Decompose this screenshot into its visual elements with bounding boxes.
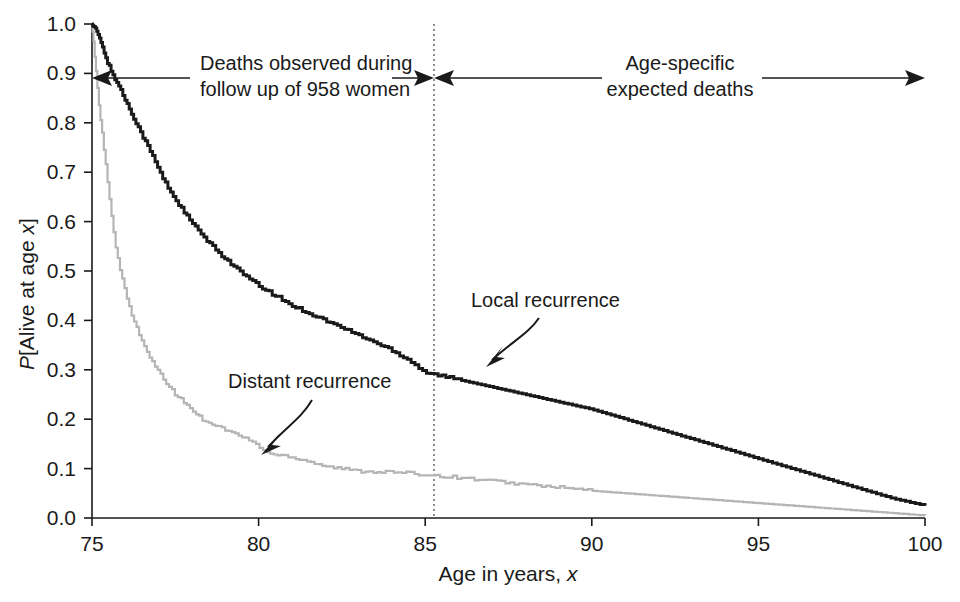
y-tick-label: 0.3 — [47, 358, 76, 381]
observed-annotation-line1: Deaths observed during — [200, 52, 412, 74]
y-axis-title-text: P[Alive at age x] — [15, 218, 38, 370]
x-axis-title-text: Age in years, x — [439, 562, 579, 585]
chart-page: 0.00.10.20.30.40.50.60.70.80.91.0 758085… — [0, 0, 960, 602]
y-tick-label: 1.0 — [47, 12, 76, 35]
expected-annotation-line1: Age-specific — [626, 52, 735, 74]
x-axis-title: Age in years, x — [439, 562, 579, 585]
x-tick-label: 75 — [80, 532, 103, 555]
survival-curve-chart: 0.00.10.20.30.40.50.60.70.80.91.0 758085… — [0, 0, 960, 602]
y-tick-label: 0.1 — [47, 457, 76, 480]
y-tick-label: 0.6 — [47, 210, 76, 233]
y-tick-label: 0.7 — [47, 160, 76, 183]
observed-annotation-line2: follow up of 958 women — [200, 78, 410, 100]
x-tick-label: 85 — [414, 532, 437, 555]
y-tick-label: 0.9 — [47, 61, 76, 84]
y-tick-label: 0.5 — [47, 259, 76, 282]
x-tick-label: 90 — [580, 532, 603, 555]
local-recurrence-label: Local recurrence — [471, 289, 620, 311]
y-tick-label: 0.0 — [47, 506, 76, 529]
y-tick-label: 0.2 — [47, 407, 76, 430]
x-tick-label: 95 — [747, 532, 770, 555]
distant-recurrence-label: Distant recurrence — [228, 370, 391, 392]
expected-annotation-line2: expected deaths — [607, 78, 754, 100]
y-axis-title: P[Alive at age x] — [15, 218, 38, 370]
x-tick-label: 100 — [907, 532, 942, 555]
x-tick-label: 80 — [247, 532, 270, 555]
y-tick-label: 0.8 — [47, 111, 76, 134]
y-tick-label: 0.4 — [47, 308, 77, 331]
